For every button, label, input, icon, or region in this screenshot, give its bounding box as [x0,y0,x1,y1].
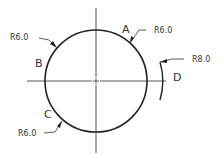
dimension-label-b: R6.0 [10,33,28,42]
arrow-a [130,36,134,43]
technical-drawing: A B C D R6.0 R6.0 R6.0 R8.0 [0,0,223,157]
point-label-a: A [122,23,130,36]
dimension-label-a: R6.0 [154,26,172,35]
point-label-c: C [44,108,52,121]
dimension-label-c: R6.0 [18,129,36,138]
arrow-d [160,59,167,63]
point-label-b: B [35,57,43,70]
dimension-label-d: R8.0 [192,55,210,64]
point-label-d: D [173,71,181,84]
leader-a [130,30,146,43]
